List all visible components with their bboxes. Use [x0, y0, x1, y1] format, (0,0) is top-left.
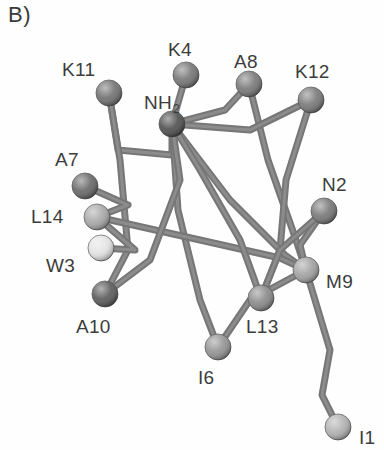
atom-sphere-A8 — [236, 71, 262, 97]
atom-sphere-L14 — [84, 204, 110, 230]
residue-label-K11: K11 — [62, 60, 95, 79]
atom-sphere-M9 — [293, 257, 319, 283]
residue-label-N2: N2 — [322, 175, 347, 194]
residue-label-I6: I6 — [198, 368, 214, 387]
residue-label-K4: K4 — [168, 40, 192, 59]
atom-sphere-K12 — [298, 87, 324, 113]
residue-label-L13: L13 — [246, 317, 279, 336]
atom-sphere-K4 — [173, 62, 199, 88]
residue-label-W3: W3 — [46, 256, 75, 275]
residue-label-M9: M9 — [326, 272, 353, 291]
atom-sphere-K11 — [96, 80, 122, 106]
atom-sphere-I6 — [205, 334, 231, 360]
residue-label-A7: A7 — [55, 150, 79, 169]
residue-label-A8: A8 — [234, 52, 258, 71]
atom-sphere-L13 — [248, 285, 274, 311]
residue-label-K12: K12 — [295, 62, 330, 81]
atom-sphere-I1 — [325, 414, 351, 440]
atom-sphere-NH2 — [159, 111, 185, 137]
residue-label-L14: L14 — [31, 207, 64, 226]
atom-sphere-N2 — [311, 198, 337, 224]
residue-label-I1: I1 — [359, 428, 375, 447]
residue-label-NH2: NH2 — [144, 93, 179, 112]
bond-L13-NH2 — [172, 124, 261, 298]
bond-M9-I1 — [306, 270, 338, 427]
atom-sphere-A10 — [92, 281, 118, 307]
atom-sphere-A7 — [72, 173, 98, 199]
residue-label-A10: A10 — [76, 317, 111, 336]
atom-sphere-W3 — [88, 235, 114, 261]
molecular-structure-figure: B) K11K4A8K12NH2A7N2L14W3M9A10L13I6I1 — [0, 0, 384, 450]
